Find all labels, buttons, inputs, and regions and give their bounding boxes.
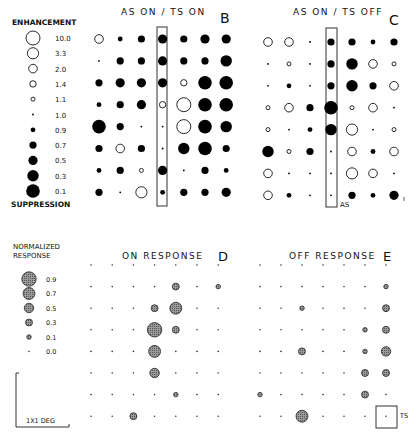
scale-bar: 1X1 DEG — [16, 373, 69, 427]
data-point — [23, 288, 35, 300]
legend-label: 0.9 — [46, 276, 56, 284]
data-point — [95, 35, 104, 44]
data-point — [117, 57, 124, 64]
data-point — [111, 351, 113, 353]
legend-label: 0.3 — [46, 319, 56, 327]
data-point — [348, 192, 355, 199]
data-point — [198, 120, 212, 134]
data-point — [116, 144, 125, 153]
data-point — [198, 76, 212, 90]
data-point — [170, 302, 182, 314]
data-point — [384, 284, 388, 288]
data-point — [330, 194, 332, 196]
data-point — [136, 187, 147, 198]
data-point — [308, 127, 313, 132]
data-point — [327, 60, 334, 67]
data-point — [221, 121, 232, 132]
data-point — [111, 329, 113, 331]
data-point — [111, 286, 113, 288]
data-point — [27, 170, 38, 181]
data-point — [264, 38, 273, 47]
panel-c-title: AS ON / TS OFF — [293, 7, 383, 17]
legend-label: 0.1 — [55, 188, 66, 196]
data-point — [346, 124, 357, 135]
data-point — [299, 348, 306, 355]
legend-label: 1.1 — [55, 96, 66, 104]
data-point — [28, 351, 30, 353]
ts-label: TS — [399, 412, 408, 420]
data-point — [264, 169, 273, 178]
data-point — [139, 168, 143, 172]
data-point — [90, 264, 92, 266]
data-point — [390, 82, 399, 91]
data-point — [322, 307, 324, 309]
data-point — [111, 264, 113, 266]
data-point — [154, 394, 156, 396]
data-point — [306, 104, 313, 111]
data-point — [133, 351, 135, 353]
legend-label: 1.4 — [55, 81, 67, 89]
data-point — [162, 148, 164, 150]
data-point — [217, 351, 219, 353]
legend-label: 0.5 — [46, 305, 56, 313]
data-point — [287, 83, 292, 88]
data-point — [306, 148, 313, 155]
data-point — [348, 38, 355, 45]
data-point — [324, 101, 338, 115]
data-point — [196, 286, 198, 288]
data-point — [322, 394, 324, 396]
data-point — [111, 372, 113, 374]
panel-e-letter: E — [383, 249, 391, 264]
data-point — [287, 150, 291, 154]
data-point — [178, 143, 189, 154]
data-point — [330, 173, 332, 175]
data-point — [30, 81, 36, 87]
data-point — [346, 80, 357, 91]
data-point — [26, 31, 40, 45]
ts-box — [376, 406, 397, 428]
data-point — [97, 168, 102, 173]
data-point — [175, 264, 177, 266]
data-point — [385, 394, 387, 396]
panel-b-letter: B — [220, 10, 230, 26]
data-point — [154, 415, 156, 417]
data-point — [259, 329, 261, 331]
data-point — [177, 120, 191, 134]
data-point — [201, 167, 208, 174]
data-point — [196, 394, 198, 396]
panel-b: AS ON / TS ON B — [92, 7, 233, 206]
data-point — [296, 410, 308, 422]
data-point — [392, 62, 396, 66]
data-point — [301, 286, 303, 288]
data-point — [330, 151, 332, 153]
data-point — [385, 415, 387, 417]
data-point — [343, 394, 345, 396]
data-point — [90, 372, 92, 374]
panel-c-grid — [262, 38, 398, 200]
data-point — [301, 329, 303, 331]
panel-c-as-column — [326, 28, 337, 207]
data-point — [98, 60, 100, 62]
data-point — [280, 264, 282, 266]
data-point — [343, 307, 345, 309]
data-point — [362, 370, 369, 377]
data-point — [28, 156, 37, 165]
scale-bar-label: 1X1 DEG — [26, 417, 55, 425]
data-point — [118, 37, 123, 42]
data-point — [309, 194, 311, 196]
data-point — [280, 286, 282, 288]
panel-d: ON RESPONSE D — [90, 249, 228, 420]
data-point — [159, 102, 165, 108]
panel-c: AS ON / TS OFF C AS — [262, 7, 404, 209]
data-point — [95, 189, 102, 196]
data-point — [133, 394, 135, 396]
data-point — [287, 62, 291, 66]
data-point — [196, 351, 198, 353]
data-point — [322, 372, 324, 374]
legend-label: 1.0 — [55, 112, 66, 120]
normalized-response-legend: NORMALIZED RESPONSE 0.90.70.50.30.10.0 1… — [13, 243, 69, 427]
legend-label: 0.3 — [55, 173, 66, 181]
data-point — [217, 307, 219, 309]
data-point — [309, 85, 311, 87]
data-point — [22, 272, 36, 286]
